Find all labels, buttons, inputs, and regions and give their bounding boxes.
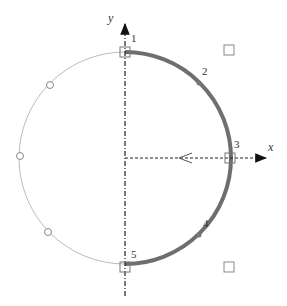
- point-1-label: 1: [131, 32, 137, 44]
- y-axis-label: y: [107, 11, 114, 25]
- point-4-label: 4: [203, 217, 209, 229]
- detached-square-bottom: [224, 262, 234, 272]
- point-2-marker: [197, 81, 202, 86]
- point-2-label: 2: [202, 65, 208, 77]
- point-3-label: 3: [234, 138, 240, 150]
- semicircle-diagram: y x 1 2 3 4 5: [0, 0, 287, 306]
- x-axis-label: x: [267, 140, 274, 154]
- left-arc-node-middle: [17, 153, 24, 160]
- left-arc-node-upper: [47, 82, 54, 89]
- point-4-marker: [197, 233, 202, 238]
- point-5-label: 5: [131, 248, 137, 260]
- thin-arc-left: [19, 52, 125, 264]
- left-arc-node-lower: [45, 229, 52, 236]
- detached-square-top: [224, 45, 234, 55]
